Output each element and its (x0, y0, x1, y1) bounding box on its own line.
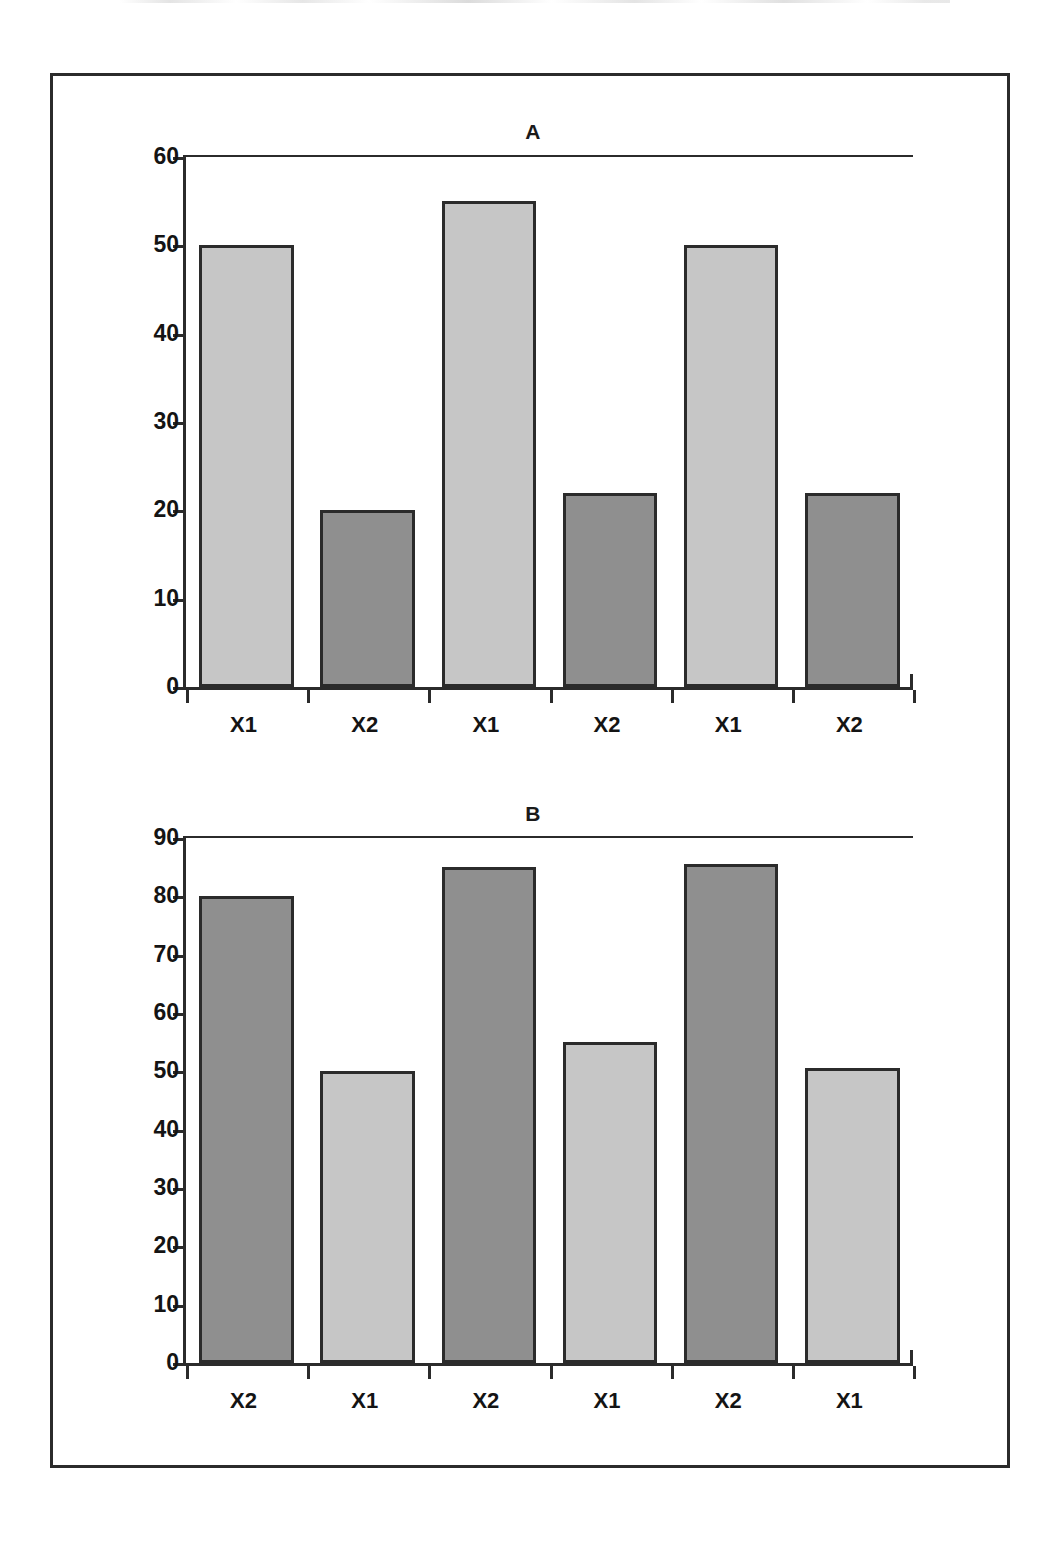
x-axis-tick-label: X2 (230, 1388, 257, 1414)
bar-x1-3 (442, 201, 537, 687)
y-axis-tick-label: 80 (153, 883, 179, 907)
y-axis-tick-label: 10 (153, 1292, 179, 1316)
chart-a-title: A (53, 120, 1013, 144)
x-axis-tick-mark (550, 690, 553, 703)
x-axis-tick-mark (671, 1366, 674, 1379)
x-axis-origin-tick (186, 690, 189, 703)
x-axis-tick-mark (913, 690, 916, 703)
y-axis-tick-label: 10 (153, 586, 179, 610)
bar-x2-1 (199, 896, 294, 1363)
y-axis-tick-label: 50 (153, 232, 179, 256)
chart-panel-a: A 0102030405060 X1X2X1X2X1X2 (53, 76, 1013, 776)
y-axis-tick-label: 40 (153, 321, 179, 345)
scan-artifact-top-line (120, 0, 950, 3)
y-axis-tick-label: 0 (166, 1350, 179, 1374)
x-axis-tick-mark (913, 1366, 916, 1379)
y-axis-tick-label: 60 (153, 144, 179, 168)
y-axis-tick-label: 90 (153, 825, 179, 849)
x-axis-tick-label: X1 (594, 1388, 621, 1414)
bar-x1-6 (805, 1068, 900, 1363)
x-axis-tick-mark (671, 690, 674, 703)
page-frame: A 0102030405060 X1X2X1X2X1X2 B 010203040… (50, 73, 1010, 1468)
y-axis-tick-label: 30 (153, 409, 179, 433)
x-axis-tick-label: X2 (351, 712, 378, 738)
x-axis-tick-label: X2 (715, 1388, 742, 1414)
x-axis-tick-label: X2 (594, 712, 621, 738)
bar-x1-5 (684, 245, 779, 687)
bar-x2-4 (563, 493, 658, 687)
chart-panel-b: B 0102030405060708090 X2X1X2X1X2X1 (53, 766, 1013, 1466)
bar-x1-2 (320, 1071, 415, 1363)
chart-a-bars (186, 157, 913, 687)
y-axis-tick-label: 20 (153, 497, 179, 521)
y-axis-tick-label: 50 (153, 1058, 179, 1082)
x-axis-tick-label: X2 (836, 712, 863, 738)
chart-a-x-labels: X1X2X1X2X1X2 (183, 712, 913, 742)
x-axis-tick-label: X1 (230, 712, 257, 738)
y-axis-tick-label: 70 (153, 942, 179, 966)
chart-b-title: B (53, 802, 1013, 826)
bar-x2-5 (684, 864, 779, 1363)
bar-x1-1 (199, 245, 294, 687)
x-axis-tick-label: X1 (836, 1388, 863, 1414)
chart-b-plot-area: 0102030405060708090 (183, 836, 913, 1366)
chart-b-bars (186, 838, 913, 1363)
y-axis-tick-label: 40 (153, 1117, 179, 1141)
x-axis-tick-mark (792, 690, 795, 703)
bar-x2-2 (320, 510, 415, 687)
x-axis-tick-mark (792, 1366, 795, 1379)
x-axis-tick-mark (550, 1366, 553, 1379)
x-axis-tick-label: X2 (472, 1388, 499, 1414)
y-axis-tick-label: 30 (153, 1175, 179, 1199)
bar-x2-6 (805, 493, 900, 687)
x-axis-tick-mark (307, 1366, 310, 1379)
x-axis-tick-label: X1 (351, 1388, 378, 1414)
x-axis-tick-mark (428, 1366, 431, 1379)
bar-x1-4 (563, 1042, 658, 1363)
y-axis-tick-label: 0 (166, 674, 179, 698)
x-axis-tick-label: X1 (472, 712, 499, 738)
x-axis-origin-tick (186, 1366, 189, 1379)
chart-a-plot-area: 0102030405060 (183, 155, 913, 690)
x-axis-tick-label: X1 (715, 712, 742, 738)
x-axis-tick-mark (307, 690, 310, 703)
bar-x2-3 (442, 867, 537, 1363)
chart-b-x-labels: X2X1X2X1X2X1 (183, 1388, 913, 1418)
y-axis-tick-label: 60 (153, 1000, 179, 1024)
y-axis-tick-label: 20 (153, 1233, 179, 1257)
x-axis-tick-mark (428, 690, 431, 703)
